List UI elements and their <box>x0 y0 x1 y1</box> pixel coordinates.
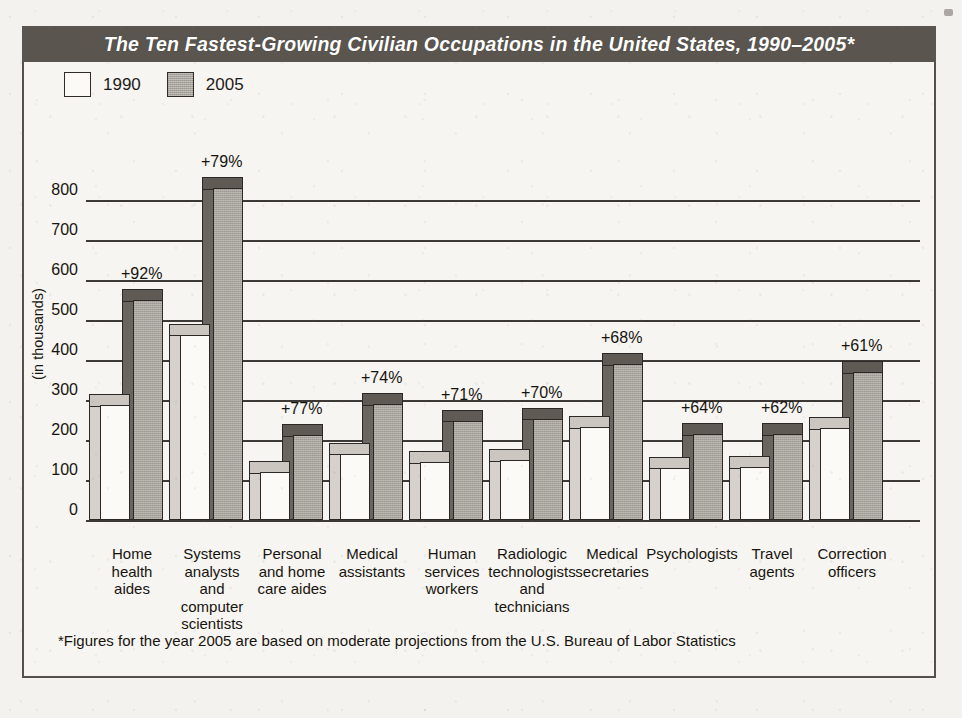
growth-label-2: +79% <box>201 153 242 171</box>
growth-label-8: +64% <box>681 399 722 417</box>
bar-front-face <box>533 419 563 520</box>
bar-1990-2 <box>180 335 210 520</box>
chart-title-banner: The Ten Fastest-Growing Civilian Occupat… <box>22 26 936 62</box>
gridline <box>86 520 920 522</box>
category-label-10: Correctionofficers <box>798 545 906 580</box>
growth-label-3: +77% <box>281 400 322 418</box>
legend-label-2005: 2005 <box>206 75 244 95</box>
category-label-line: computer <box>158 598 266 616</box>
bar-2005-1 <box>133 300 163 520</box>
bar-1990-4 <box>340 454 370 520</box>
bar-1990-6 <box>500 460 530 520</box>
bar-1990-7 <box>580 427 610 520</box>
bar-1990-1 <box>100 405 130 520</box>
bar-2005-7 <box>613 364 643 520</box>
y-tick-label: 200 <box>32 421 78 439</box>
chart-footnote: *Figures for the year 2005 are based on … <box>58 632 736 649</box>
growth-label-1: +92% <box>121 265 162 283</box>
bar-2005-4 <box>373 404 403 520</box>
bar-front-face <box>613 364 643 520</box>
bar-front-face <box>453 421 483 520</box>
growth-label-4: +74% <box>361 369 402 387</box>
category-label-line: technicians <box>478 598 586 616</box>
bar-2005-6 <box>533 419 563 520</box>
bar-front-face <box>820 428 850 520</box>
bar-front-face <box>420 462 450 520</box>
bar-front-face <box>180 335 210 520</box>
growth-label-6: +70% <box>521 384 562 402</box>
growth-label-7: +68% <box>601 329 642 347</box>
bar-1990-9 <box>740 467 770 520</box>
bar-front-face <box>293 435 323 520</box>
chart-page: The Ten Fastest-Growing Civilian Occupat… <box>0 0 962 718</box>
bar-front-face <box>260 472 290 520</box>
bar-2005-2 <box>213 188 243 520</box>
bar-front-face <box>340 454 370 520</box>
growth-label-10: +61% <box>841 337 882 355</box>
growth-label-9: +62% <box>761 399 802 417</box>
category-label-line: and <box>478 580 586 598</box>
bar-2005-8 <box>693 434 723 520</box>
category-label-line: scientists <box>158 615 266 633</box>
bar-2005-5 <box>453 421 483 520</box>
chart-title: The Ten Fastest-Growing Civilian Occupat… <box>104 33 854 56</box>
bar-2005-9 <box>773 434 803 520</box>
y-tick-label: 800 <box>32 181 78 199</box>
bar-2005-10 <box>853 372 883 520</box>
chart-legend: 1990 2005 <box>64 72 244 97</box>
bar-front-face <box>773 434 803 520</box>
bar-2005-3 <box>293 435 323 520</box>
bar-front-face <box>853 372 883 520</box>
bar-front-face <box>373 404 403 520</box>
y-tick-label: 0 <box>32 501 78 519</box>
bar-front-face <box>100 405 130 520</box>
legend-label-1990: 1990 <box>103 75 141 95</box>
bar-front-face <box>660 468 690 520</box>
bar-front-face <box>213 188 243 520</box>
legend-swatch-2005-icon <box>167 72 194 97</box>
bar-1990-3 <box>260 472 290 520</box>
y-tick-label: 700 <box>32 221 78 239</box>
bar-1990-5 <box>420 462 450 520</box>
y-tick-label: 100 <box>32 461 78 479</box>
y-tick-label: 300 <box>32 381 78 399</box>
bar-1990-10 <box>820 428 850 520</box>
bar-front-face <box>580 427 610 520</box>
category-label-line: care aides <box>238 580 346 598</box>
bar-front-face <box>740 467 770 520</box>
category-label-line: Correction <box>798 545 906 563</box>
y-tick-label: 500 <box>32 301 78 319</box>
legend-item-1990: 1990 <box>64 72 141 97</box>
legend-item-2005: 2005 <box>167 72 244 97</box>
y-tick-label: 400 <box>32 341 78 359</box>
category-label-line: officers <box>798 563 906 581</box>
legend-swatch-1990-icon <box>64 72 91 97</box>
bar-front-face <box>133 300 163 520</box>
bar-front-face <box>500 460 530 520</box>
y-tick-label: 600 <box>32 261 78 279</box>
bar-front-face <box>693 434 723 520</box>
chart-plot-area: The Ten Fastest-Growing Civilian Occupat… <box>22 26 936 678</box>
scan-speck <box>944 9 953 16</box>
category-label-line: secretaries <box>558 563 666 581</box>
growth-label-5: +71% <box>441 386 482 404</box>
bar-1990-8 <box>660 468 690 520</box>
